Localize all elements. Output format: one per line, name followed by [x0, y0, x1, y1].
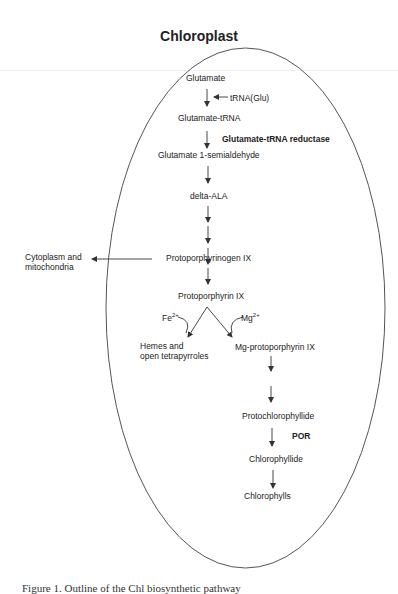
- node-chlorophylls: Chlorophylls: [244, 491, 291, 501]
- node-glutamate-semialdehyde: Glutamate 1-semialdehyde: [158, 150, 260, 160]
- node-chlorophyllide: Chlorophyllide: [249, 454, 303, 464]
- chloroplast-membrane: [106, 48, 385, 568]
- enzyme-glutamate-trna-reductase: Glutamate-tRNA reductase: [222, 134, 330, 144]
- label-mg2plus: Mg2+: [241, 312, 260, 323]
- enzyme-por: POR: [292, 431, 310, 441]
- node-protochlorophyllide: Protochlorophyllide: [242, 411, 314, 421]
- arrow-fe-insertion: [178, 317, 188, 333]
- label-fe2plus: Fe2+: [162, 312, 179, 323]
- node-protoporphyrin: Protoporphyrin IX: [178, 291, 244, 301]
- arrow-proto-to-mgproto: [207, 307, 232, 337]
- node-hemes: Hemes and open tetrapyrroles: [140, 341, 209, 361]
- node-glutamate: Glutamate: [186, 73, 225, 83]
- node-glutamate-trna: Glutamate-tRNA: [178, 113, 240, 123]
- arrow-proto-to-hemes: [188, 307, 207, 337]
- node-trna-glu: tRNA(Glu): [230, 93, 269, 103]
- node-delta-ala: delta-ALA: [190, 191, 227, 201]
- node-cytoplasm-mitochondria: Cytoplasm and mitochondria: [25, 252, 82, 272]
- figure-caption: Figure 1. Outline of the Chl biosyntheti…: [22, 582, 241, 594]
- node-protoporphyrinogen: Protoporphyrinogen IX: [166, 253, 251, 263]
- node-mg-protoporphyrin: Mg-protoporphyrin IX: [235, 342, 315, 352]
